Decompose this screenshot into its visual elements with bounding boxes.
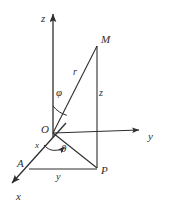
segment-OP-projection [53,133,97,168]
angle-label-phi: φ [56,87,62,98]
y-axis-line [53,130,139,133]
point-label-O: O [41,124,49,135]
z-axis-label: z [41,13,45,24]
point-label-M: M [101,34,110,45]
point-label-A: A [17,158,24,169]
segment-label-x: x [35,141,39,150]
spherical-coordinates-figure: z y x O M P A r z y x φ θ [0,0,174,212]
point-label-P: P [101,165,108,176]
angle-label-theta: θ [61,143,66,154]
segment-label-y: y [56,172,60,182]
figure-drawing [0,0,174,212]
segment-label-z: z [99,88,103,98]
segment-label-r: r [73,67,77,77]
y-axis-label: y [148,131,153,142]
x-axis-label: x [16,191,21,202]
